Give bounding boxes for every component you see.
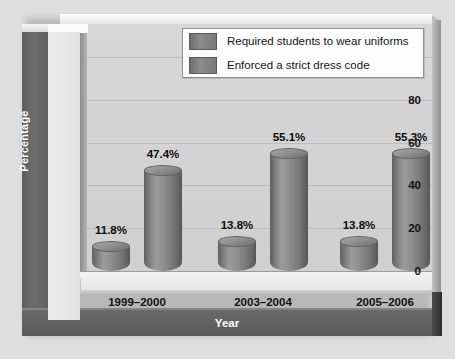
legend-item: Required students to wear uniforms bbox=[183, 29, 423, 53]
x-axis-title: Year bbox=[22, 313, 432, 333]
y-axis-tick-label: 40 bbox=[387, 179, 421, 191]
y-axis-tick-label: 80 bbox=[387, 94, 421, 106]
x-axis-category-label: 2003–2004 bbox=[203, 296, 323, 308]
bar-value-label: 47.4% bbox=[128, 148, 198, 160]
gridline bbox=[87, 100, 432, 101]
chart-container: 11.8%47.4%13.8%55.1%13.8%55.3% 1999–2000… bbox=[0, 0, 455, 359]
x-axis-band-highlight bbox=[22, 308, 432, 310]
bar-value-label: 55.1% bbox=[254, 131, 324, 143]
legend-item: Enforced a strict dress code bbox=[183, 53, 423, 77]
bar-value-label: 11.8% bbox=[76, 224, 146, 236]
legend-swatch-icon bbox=[189, 33, 217, 50]
bar-top-ellipse bbox=[92, 241, 130, 252]
y-axis-tick-label: 0 bbox=[387, 265, 421, 277]
x-axis-category-label: 2005–2006 bbox=[325, 296, 445, 308]
plot-floor-front-edge bbox=[80, 290, 432, 295]
gridline bbox=[87, 185, 432, 186]
bar-top-ellipse bbox=[144, 165, 182, 176]
x-axis-category-label: 1999–2000 bbox=[77, 296, 197, 308]
bar-body bbox=[392, 153, 430, 271]
y-axis-title: Percentage bbox=[11, 93, 37, 189]
bar-body bbox=[270, 153, 308, 271]
frame-right-edge bbox=[432, 20, 441, 320]
y-axis-tick-label: 20 bbox=[387, 222, 421, 234]
bar bbox=[218, 241, 256, 271]
bar bbox=[144, 170, 182, 271]
legend-item-label: Required students to wear uniforms bbox=[227, 35, 409, 47]
bar bbox=[340, 241, 378, 271]
bar-value-label: 13.8% bbox=[324, 219, 394, 231]
bar-top-ellipse bbox=[392, 148, 430, 159]
legend: Required students to wear uniforms Enfor… bbox=[182, 28, 424, 78]
legend-swatch-icon bbox=[189, 57, 217, 74]
bar bbox=[392, 153, 430, 271]
frame-corner-shadow bbox=[432, 292, 442, 336]
bar bbox=[270, 153, 308, 271]
bar-value-label: 13.8% bbox=[202, 219, 272, 231]
bar-body bbox=[144, 170, 182, 271]
legend-item-label: Enforced a strict dress code bbox=[227, 59, 370, 71]
bar-top-ellipse bbox=[270, 148, 308, 159]
bar bbox=[92, 246, 130, 271]
y-axis-tick-label: 60 bbox=[387, 137, 421, 149]
y-tick-strip bbox=[48, 32, 80, 320]
